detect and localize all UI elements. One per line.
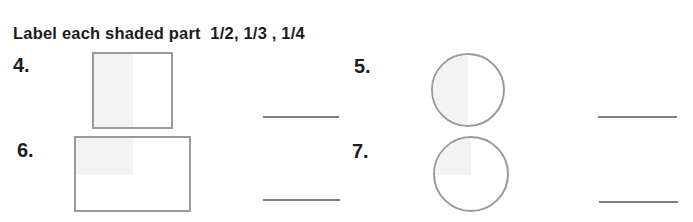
problem-5-answer-line <box>598 116 677 118</box>
worksheet-page: Label each shaded part 1/2, 1/3 , 1/4 4.… <box>0 0 693 222</box>
problem-5-number: 5. <box>354 56 371 76</box>
problem-7-number: 7. <box>352 141 369 161</box>
problem-4-number: 4. <box>13 55 30 75</box>
problem-7-answer-line <box>599 201 678 203</box>
problem-4-answer-line <box>263 116 339 118</box>
problem-6-rectangle-shape <box>74 136 191 212</box>
problem-6-number: 6. <box>17 140 34 160</box>
instruction-title: Label each shaded part 1/2, 1/3 , 1/4 <box>13 24 305 43</box>
problem-4-square-shape <box>92 52 173 129</box>
problem-6-shaded-region <box>76 138 133 175</box>
problem-7-circle-shape <box>433 136 509 212</box>
problem-4-shaded-region <box>94 54 133 127</box>
problem-7-shaded-region <box>435 138 471 175</box>
problem-5-circle-shape <box>431 53 505 127</box>
problem-6-answer-line <box>263 199 340 201</box>
problem-5-shaded-region <box>433 55 468 125</box>
